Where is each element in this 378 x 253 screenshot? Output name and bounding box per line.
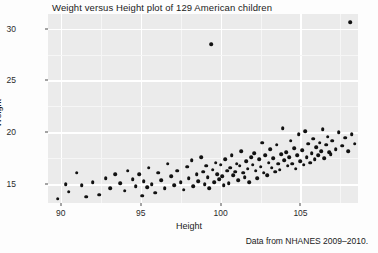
scatter-point [350,133,354,137]
scatter-point [259,165,263,169]
chart-caption: Data from NHANES 2009–2010. [246,236,368,246]
scatter-point [200,156,204,160]
scatter-point [268,147,272,151]
scatter-point [206,175,210,179]
scatter-point [150,183,154,187]
chart-title: Weight versus Height plot of 129 America… [52,2,272,13]
scatter-point [248,180,252,184]
scatter-point [109,187,113,191]
gridline-minor-vertical [101,14,102,203]
scatter-point [310,151,314,155]
gridline-minor-horizontal [48,106,358,107]
scatter-point [91,180,95,184]
scatter-point [307,142,311,146]
scatter-point [329,152,333,156]
gridline-major-horizontal [48,29,358,30]
x-axis-tick-label: 100 [213,208,227,218]
scatter-point [113,172,117,176]
scatter-point [160,178,164,182]
scatter-point [80,184,84,188]
scatter-point [230,153,234,157]
scatter-point [340,144,344,148]
scatter-point [292,146,296,150]
scatter-point [315,145,319,149]
scatter-point [64,183,68,187]
scatter-point [182,188,186,192]
y-axis-tick-label: 25 [7,75,16,85]
scatter-point [118,181,122,185]
scatter-point [211,168,215,172]
gridline-major-horizontal [48,80,358,81]
scatter-point [163,187,167,191]
scatter-point [214,161,218,165]
scatter-point [134,185,138,189]
scatter-point [249,156,253,160]
chart-figure: Weight versus Height plot of 129 America… [0,0,378,253]
scatter-point [323,157,327,161]
scatter-point [228,166,232,170]
scatter-point [212,180,216,184]
gridline-minor-vertical [181,14,182,203]
scatter-point [204,164,208,168]
scatter-point [185,165,189,169]
scatter-point [305,156,309,160]
scatter-point [126,169,130,173]
scatter-point [238,164,242,168]
scatter-point [123,189,127,193]
scatter-point [313,158,317,162]
scatter-point [137,172,141,176]
y-axis-tick-label: 20 [7,127,16,137]
scatter-point [240,149,244,153]
scatter-point [283,159,287,163]
scatter-point [252,151,256,155]
y-axis-tick-mark [45,28,48,29]
scatter-point [278,168,282,172]
gridline-major-horizontal [48,132,358,133]
y-axis-tick-mark [45,80,48,81]
scatter-point [291,162,295,166]
scatter-point [347,149,351,153]
scatter-point [179,180,183,184]
scatter-point [251,163,255,167]
scatter-point [203,183,207,187]
scatter-point [176,169,180,173]
y-axis-tick-label: 30 [7,24,16,34]
scatter-point [236,178,240,182]
scatter-point [303,130,307,134]
scatter-point [275,143,279,147]
scatter-point [169,174,173,178]
y-axis-tick-mark [45,184,48,185]
scatter-point [326,135,330,139]
scatter-point [153,191,157,195]
scatter-point [260,141,264,145]
scatter-point [281,126,285,130]
scatter-point [196,179,200,183]
scatter-point [246,167,250,171]
y-axis-tick-mark [45,132,48,133]
scatter-point [156,171,160,175]
scatter-point [295,153,299,157]
x-axis-tick-label: 105 [293,208,307,218]
scatter-point [318,141,322,145]
scatter-point [289,139,293,143]
scatter-point [254,169,258,173]
scatter-point [343,136,347,140]
scatter-point [348,21,352,25]
y-axis-tick-label: 15 [7,179,16,189]
gridline-major-vertical [141,14,142,203]
scatter-point [311,137,315,141]
scatter-point [300,148,304,152]
scatter-point [195,172,199,176]
scatter-point [187,176,191,180]
scatter-point [273,170,277,174]
scatter-point [217,177,221,181]
scatter-point [331,139,335,143]
scatter-point [67,190,71,194]
scatter-point [222,184,226,188]
y-axis-label: Weight [0,99,3,127]
scatter-point [224,158,228,162]
x-axis-tick-mark [220,203,221,206]
scatter-point [140,194,144,198]
scatter-point [142,179,146,183]
scatter-point [241,171,245,175]
